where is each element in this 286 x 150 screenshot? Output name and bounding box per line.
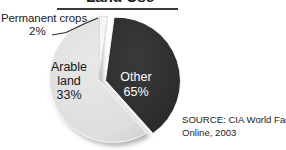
land-use-pie-chart-figure: Land Use <box>0 0 286 150</box>
arable-land-label-line-2: land <box>57 74 81 88</box>
other-value: 65% <box>105 85 167 99</box>
arable-land-label: Arable land <box>37 60 101 88</box>
arable-land-label-line-1: Arable <box>51 60 87 74</box>
other-label: Other <box>105 70 167 84</box>
source-line-2: Online, 2003 <box>182 127 286 140</box>
permanent-crops-value: 2% <box>29 25 46 37</box>
permanent-crops-label: Permanent crops <box>1 12 87 24</box>
source-note: SOURCE: CIA World Factbook Online, 2003 <box>182 114 286 139</box>
arable-land-value: 33% <box>37 88 101 102</box>
source-line-1: SOURCE: CIA World Factbook <box>182 114 286 127</box>
